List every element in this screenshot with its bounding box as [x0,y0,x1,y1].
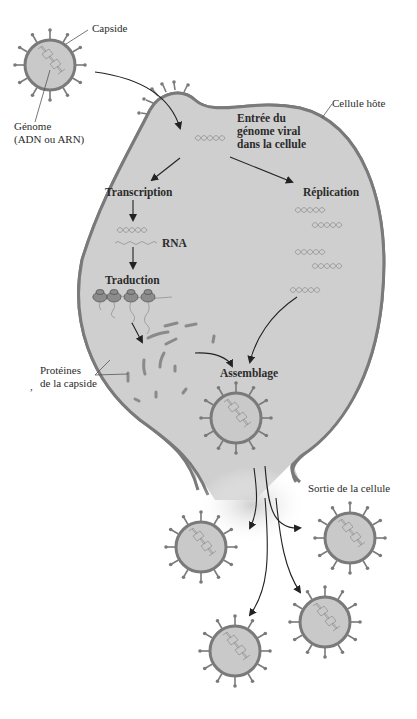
label-replication: Réplication [303,186,360,199]
label-entry-2: génome viral [237,125,301,138]
label-rna: RNA [162,237,188,249]
label-proteins-1: Protéines [40,364,81,376]
label-proteins-2: de la capside [40,377,97,389]
label-assembly: Assemblage [220,367,278,380]
capsid-leader [66,30,88,44]
host-cell-leader [322,104,332,118]
label-capsid: Capside [92,22,128,34]
released-virus-icon [198,614,272,688]
label-genome-type: (ADN ou ARN) [14,133,85,146]
viral-replication-diagram: Capside Génome (ADN ou ARN) Entrée du gé… [0,0,417,719]
label-transcription: Transcription [105,186,173,199]
label-entry-3: dans la cellule [237,138,306,150]
label-translation: Traduction [105,274,160,286]
label-host-cell: Cellule hôte [332,97,386,109]
label-entry-1: Entrée du [237,112,286,124]
released-virus-icon [288,585,362,659]
released-virus-icon [313,501,387,575]
label-genome: Génome [14,120,51,132]
free-virus-icon [13,28,87,102]
label-exit: Sortie de la cellule [308,482,390,494]
stray-mark: , [30,380,33,392]
